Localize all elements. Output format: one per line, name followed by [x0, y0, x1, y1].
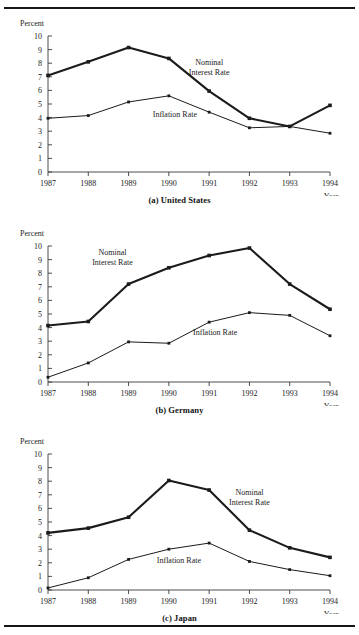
data-point-marker: [248, 116, 252, 120]
x-axis-tick-label: 1990: [161, 179, 177, 188]
x-axis-tick-label: 1990: [161, 597, 177, 606]
data-point-marker: [329, 574, 332, 577]
data-point-marker: [328, 307, 332, 311]
series-line: [48, 313, 330, 378]
y-axis-tick-label: 1: [38, 154, 42, 163]
x-axis-label: Year: [324, 192, 339, 196]
y-axis-tick-label: 10: [34, 32, 42, 41]
chart-caption-united-states: (a) United States: [0, 195, 359, 205]
data-point-marker: [46, 74, 50, 78]
x-axis-label: Year: [324, 402, 339, 406]
data-point-marker: [167, 57, 171, 61]
x-axis-tick-label: 1988: [80, 179, 96, 188]
data-point-marker: [86, 320, 90, 324]
data-point-marker: [248, 560, 251, 563]
data-point-marker: [47, 587, 50, 590]
y-axis-tick-label: 7: [38, 491, 42, 500]
x-axis-tick-label: 1987: [40, 597, 56, 606]
y-axis-tick-label: 10: [34, 242, 42, 251]
x-axis-tick-label: 1990: [161, 389, 177, 398]
data-point-marker: [127, 558, 130, 561]
data-point-marker: [288, 314, 291, 317]
series-annotation-label: NominalInterest Rate: [229, 488, 270, 507]
x-axis-tick-label: 1994: [322, 179, 338, 188]
plot-area-germany: Percent012345678910198719881989199019911…: [0, 224, 359, 406]
data-point-marker: [47, 117, 50, 120]
x-axis-tick-label: 1993: [282, 597, 298, 606]
data-point-marker: [328, 556, 332, 560]
data-point-marker: [86, 60, 90, 64]
y-axis-tick-label: 4: [38, 532, 42, 541]
data-point-marker: [328, 104, 332, 108]
y-axis-tick-label: 2: [38, 141, 42, 150]
y-axis-tick-label: 7: [38, 73, 42, 82]
series-annotation-label: NominalInterest Rate: [92, 248, 133, 267]
y-axis-tick-label: 3: [38, 337, 42, 346]
data-point-marker: [207, 488, 211, 492]
y-axis-tick-label: 6: [38, 504, 42, 513]
data-point-marker: [127, 340, 130, 343]
x-axis-label: Year: [324, 610, 339, 614]
y-axis-tick-label: 9: [38, 46, 42, 55]
y-axis-label: Percent: [20, 229, 45, 238]
bottom-divider-rule: [4, 625, 355, 627]
data-point-marker: [329, 334, 332, 337]
chart-panel-germany: Percent012345678910198719881989199019911…: [0, 224, 359, 415]
data-point-marker: [87, 576, 90, 579]
data-point-marker: [46, 324, 50, 328]
data-point-marker: [167, 548, 170, 551]
y-axis-tick-label: 0: [38, 586, 42, 595]
y-axis-tick-label: 4: [38, 324, 42, 333]
data-point-marker: [288, 282, 292, 286]
data-point-marker: [288, 546, 292, 550]
y-axis-tick-label: 8: [38, 477, 42, 486]
data-point-marker: [167, 342, 170, 345]
figure-page: Percent012345678910198719881989199019911…: [0, 0, 359, 635]
series-annotation-label: Inflation Rate: [157, 556, 202, 565]
x-axis-tick-label: 1987: [40, 179, 56, 188]
x-axis-tick-label: 1989: [121, 597, 137, 606]
data-point-marker: [248, 126, 251, 129]
y-axis-tick-label: 1: [38, 572, 42, 581]
y-axis-tick-label: 1: [38, 364, 42, 373]
chart-panel-japan: Percent012345678910198719881989199019911…: [0, 432, 359, 623]
x-axis-tick-label: 1991: [201, 597, 217, 606]
data-point-marker: [127, 101, 130, 104]
data-point-marker: [248, 528, 252, 532]
y-axis-tick-label: 7: [38, 283, 42, 292]
x-axis-tick-label: 1991: [201, 179, 217, 188]
chart-caption-germany: (b) Germany: [0, 405, 359, 415]
data-point-marker: [329, 132, 332, 135]
x-axis-tick-label: 1993: [282, 179, 298, 188]
x-axis-tick-label: 1989: [121, 179, 137, 188]
data-point-marker: [127, 282, 131, 286]
x-axis-tick-label: 1991: [201, 389, 217, 398]
plot-area-united-states: Percent012345678910198719881989199019911…: [0, 14, 359, 196]
chart-caption-japan: (c) Japan: [0, 613, 359, 623]
data-point-marker: [208, 111, 211, 114]
data-point-marker: [87, 114, 90, 117]
data-point-marker: [127, 515, 131, 519]
y-axis-tick-label: 9: [38, 464, 42, 473]
y-axis-tick-label: 6: [38, 86, 42, 95]
data-point-marker: [208, 321, 211, 324]
data-point-marker: [46, 531, 50, 535]
data-point-marker: [167, 479, 171, 483]
y-axis-tick-label: 4: [38, 114, 42, 123]
data-point-marker: [248, 246, 252, 250]
y-axis-tick-label: 9: [38, 256, 42, 265]
x-axis-tick-label: 1994: [322, 389, 338, 398]
y-axis-label: Percent: [20, 19, 45, 28]
y-axis-tick-label: 8: [38, 269, 42, 278]
data-point-marker: [288, 568, 291, 571]
x-axis-tick-label: 1987: [40, 389, 56, 398]
data-point-marker: [86, 526, 90, 530]
top-divider-rule: [4, 7, 355, 9]
x-axis-tick-label: 1992: [241, 597, 257, 606]
data-point-marker: [167, 94, 170, 97]
series-line: [48, 543, 330, 588]
y-axis-tick-label: 5: [38, 100, 42, 109]
series-annotation-label: Inflation Rate: [193, 328, 238, 337]
chart-panel-united-states: Percent012345678910198719881989199019911…: [0, 14, 359, 205]
x-axis-tick-label: 1988: [80, 597, 96, 606]
